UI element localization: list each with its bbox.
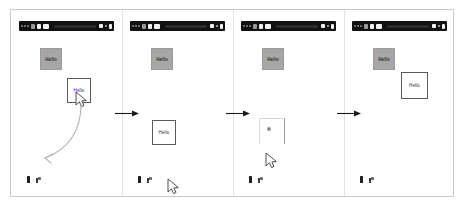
titlebar-dot-icon <box>105 25 107 27</box>
panel-2-drag-moved: Hello Hello <box>122 10 233 196</box>
panel-4-drop-complete: Hello Hello <box>344 10 455 196</box>
app-icon[interactable] <box>360 176 363 183</box>
white-hello-label: Hello <box>159 130 170 135</box>
window-titlebar <box>241 21 336 31</box>
titlebar-address-bar[interactable] <box>165 25 207 28</box>
gray-hello-label: Hello <box>156 57 168 62</box>
folder-icon[interactable] <box>36 177 41 183</box>
titlebar-address-bar[interactable] <box>54 25 96 28</box>
titlebar-dot-icon <box>327 25 329 27</box>
window-titlebar <box>130 21 225 31</box>
flow-arrow-2-to-3 <box>225 109 251 118</box>
titlebar-dot-icon <box>216 25 218 27</box>
panel-3-drop-target: Hello <box>233 10 344 196</box>
titlebar-address-bar[interactable] <box>276 25 318 28</box>
titlebar-dot-icon <box>438 25 440 27</box>
window-controls-icon <box>243 25 251 27</box>
titlebar-menu-icon[interactable] <box>220 24 223 29</box>
titlebar-chip <box>370 24 374 29</box>
gray-hello-block[interactable]: Hello <box>373 48 395 70</box>
folder-icon[interactable] <box>369 177 374 183</box>
gray-hello-label: Hello <box>45 57 57 62</box>
storyboard-frame: Hello Hello <box>10 9 454 197</box>
taskbar <box>27 176 41 183</box>
app-icon[interactable] <box>138 176 141 183</box>
window-controls-icon <box>21 25 29 27</box>
window-controls-icon <box>132 25 140 27</box>
titlebar-address-bar[interactable] <box>387 25 429 28</box>
flow-arrow-3-to-4 <box>336 109 362 118</box>
titlebar-chip <box>154 24 160 29</box>
titlebar-action-icon[interactable] <box>321 24 325 28</box>
titlebar-action-icon[interactable] <box>99 24 103 28</box>
gray-hello-block[interactable]: Hello <box>40 48 62 70</box>
mouse-pointer-icon <box>167 178 181 196</box>
drop-indicator-icon <box>267 127 271 131</box>
titlebar-menu-icon[interactable] <box>331 24 334 29</box>
titlebar-chip <box>31 24 35 29</box>
titlebar-chip <box>364 24 368 29</box>
taskbar <box>360 176 374 183</box>
white-hello-label: Hello <box>409 83 420 88</box>
app-icon[interactable] <box>249 176 252 183</box>
gray-hello-label: Hello <box>378 57 390 62</box>
titlebar-chip <box>253 24 257 29</box>
flow-arrow-1-to-2 <box>114 109 140 118</box>
white-hello-card[interactable]: Hello <box>152 120 176 145</box>
titlebar-action-icon[interactable] <box>432 24 436 28</box>
panel-1-drag-start: Hello Hello <box>11 10 122 196</box>
gray-hello-block[interactable]: Hello <box>151 48 173 70</box>
titlebar-chip <box>265 24 271 29</box>
titlebar-chip <box>259 24 263 29</box>
drop-target-outline <box>259 118 285 144</box>
taskbar <box>138 176 152 183</box>
gray-hello-block[interactable]: Hello <box>262 48 284 70</box>
titlebar-menu-icon[interactable] <box>442 24 445 29</box>
titlebar-chip <box>376 24 382 29</box>
folder-icon[interactable] <box>147 177 152 183</box>
window-titlebar <box>352 21 447 31</box>
taskbar <box>249 176 263 183</box>
curved-motion-arrow-icon <box>37 102 85 166</box>
titlebar-menu-icon[interactable] <box>109 24 112 29</box>
titlebar-chip <box>142 24 146 29</box>
white-hello-card[interactable]: Hello <box>401 72 428 99</box>
titlebar-chip <box>43 24 49 29</box>
folder-icon[interactable] <box>258 177 263 183</box>
app-icon[interactable] <box>27 176 30 183</box>
mouse-pointer-icon <box>265 152 279 170</box>
titlebar-action-icon[interactable] <box>210 24 214 28</box>
window-controls-icon <box>354 25 362 27</box>
titlebar-chip <box>148 24 152 29</box>
gray-hello-label: Hello <box>267 57 279 62</box>
titlebar-chip <box>37 24 41 29</box>
window-titlebar <box>19 21 114 31</box>
storyboard-figure: Hello Hello <box>0 0 467 216</box>
